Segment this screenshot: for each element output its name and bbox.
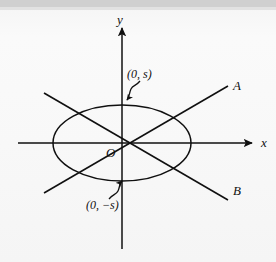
line-a-label: A [233,79,241,92]
x-axis-label: x [261,136,267,149]
point-label-bottom: (0, −s) [86,199,119,211]
point-label-top: (0, s) [127,68,152,80]
figure-container: y x O A B (0, s) (0, −s) [0,0,276,262]
y-axis-label: y [117,13,123,26]
line-b-through-bottom-point [44,93,228,200]
line-b-label: B [233,184,241,197]
line-a-through-top-point [44,86,228,193]
origin-label: O [106,146,115,159]
intersecting-lines-layer [0,0,276,262]
